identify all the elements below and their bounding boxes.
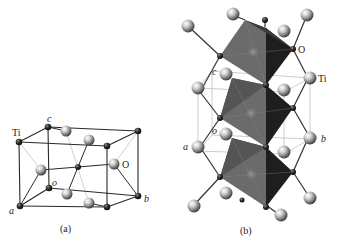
titanium-atom [275, 209, 288, 222]
oxygen-atom [62, 189, 73, 200]
panel-a-label-ti: Ti [12, 128, 21, 138]
panel-a-label-b: b [144, 194, 149, 204]
panel-a-label-a: a [9, 206, 14, 216]
panel-a-label-c: c [47, 114, 51, 124]
oxygen-atom [217, 174, 223, 180]
oxygen-atom [84, 198, 95, 209]
titanium-atom [188, 200, 201, 213]
titanium-atom [304, 132, 317, 145]
titanium-atom [278, 146, 291, 159]
oxygen-atom [263, 82, 269, 88]
oxygen-atom [240, 198, 245, 203]
oxygen-atom [109, 159, 120, 170]
oxygen-atom [217, 53, 223, 59]
titanium-atom [104, 204, 111, 211]
titanium-atom [17, 203, 24, 210]
panel-a-label-o: O [122, 160, 129, 170]
titanium-atom [278, 25, 291, 38]
panel-a-label-origin: o [52, 178, 57, 188]
titanium-atom [227, 8, 240, 21]
panel-b-octahedra-chain [182, 8, 317, 222]
titanium-atom [135, 128, 142, 135]
oxygen-atom [263, 204, 269, 210]
titanium-atom [220, 128, 233, 141]
oxygen-atom [262, 17, 268, 23]
titanium-atom [301, 9, 314, 22]
titanium-atom [220, 187, 233, 200]
oxygen-atom [36, 165, 47, 176]
panel-b-label-a: a [183, 142, 188, 152]
oxygen-atom [290, 105, 296, 111]
oxygen-atom [290, 169, 296, 175]
titanium-atom [304, 192, 317, 205]
titanium-atom [220, 68, 233, 81]
titanium-atom [304, 72, 317, 85]
titanium-atom-center [75, 164, 81, 170]
panel-b-label-b: b [321, 134, 326, 144]
titanium-atom [278, 84, 291, 97]
oxygen-atom [263, 144, 269, 150]
titanium-atom [16, 139, 23, 146]
panel-a-caption: (a) [60, 224, 71, 234]
panel-b-label-c: c [212, 67, 216, 77]
titanium-atom [192, 82, 205, 95]
titanium-atom [182, 20, 195, 33]
titanium-atom [45, 124, 52, 131]
titanium-atom [192, 141, 205, 154]
oxygen-atom [217, 115, 223, 121]
oxygen-atom [61, 126, 72, 137]
oxygen-atom [84, 135, 95, 146]
panel-b-label-ti: Ti [318, 74, 327, 84]
titanium-atom [135, 193, 142, 200]
oxygen-atom [290, 46, 296, 52]
panel-b-caption: (b) [240, 226, 252, 236]
panel-b-label-o: O [298, 45, 305, 55]
panel-b-label-origin: o [212, 126, 217, 136]
titanium-atom [104, 143, 111, 150]
